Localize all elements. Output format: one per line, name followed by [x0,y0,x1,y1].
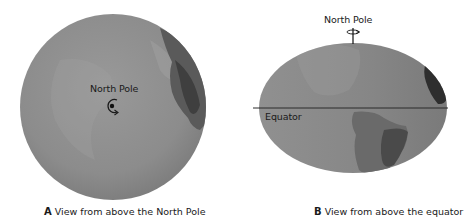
caption-a: AView from above the North Pole [44,206,205,217]
globe-polar-view [0,0,234,224]
caption-a-letter: A [44,206,52,217]
caption-a-text: View from above the North Pole [55,206,206,217]
caption-b: BView from above the equator [314,206,463,217]
panel-b-equatorial-view: North Pole Equator BView from above the … [234,0,467,224]
equator-label: Equator [265,111,302,122]
north-pole-label-a: North Pole [90,83,138,94]
rotation-axis-icon [347,28,360,44]
panel-a-polar-view: North Pole AView from above the North Po… [0,0,234,224]
caption-b-letter: B [314,206,322,217]
caption-b-text: View from above the equator [325,206,464,217]
north-pole-label-b: North Pole [324,14,372,25]
pole-dot-icon [110,104,114,108]
